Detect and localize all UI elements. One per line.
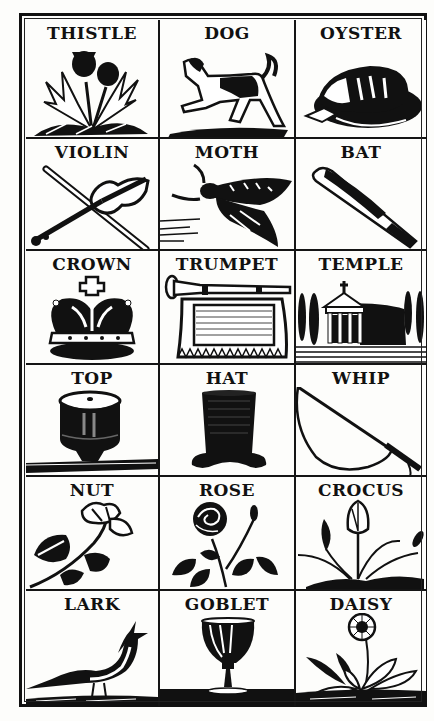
crown-icon — [26, 273, 158, 363]
cell-label: OYSTER — [296, 23, 426, 43]
temple-icon — [296, 273, 426, 363]
violin-icon — [26, 161, 158, 249]
cell-temple: TEMPLE — [296, 251, 426, 365]
cell-label: MOTH — [160, 142, 294, 162]
cell-label: TRUMPET — [160, 254, 294, 274]
cell-label: TOP — [26, 368, 158, 388]
top-hat-icon — [160, 387, 294, 475]
cell-label: DOG — [160, 23, 294, 43]
cell-violin: VIOLIN — [26, 139, 160, 251]
cell-trumpet: TRUMPET — [160, 251, 296, 365]
cell-daisy: DAISY — [296, 591, 426, 706]
goblet-icon — [160, 613, 294, 706]
cell-label: TEMPLE — [296, 254, 426, 274]
oyster-icon — [296, 42, 426, 137]
daisy-icon — [296, 613, 426, 706]
cell-oyster: OYSTER — [296, 20, 426, 139]
cell-crocus: CROCUS — [296, 477, 426, 591]
trumpet-icon — [160, 273, 294, 363]
cell-label: HAT — [160, 368, 294, 388]
moth-icon — [160, 161, 294, 249]
cell-bat: BAT — [296, 139, 426, 251]
rose-icon — [160, 499, 294, 589]
crocus-icon — [296, 499, 426, 589]
spinning-top-icon — [26, 387, 158, 475]
thistle-icon — [26, 42, 158, 137]
cell-thistle: THISTLE — [26, 20, 160, 139]
cell-label: BAT — [296, 142, 426, 162]
cell-label: CROCUS — [296, 480, 426, 500]
lark-icon — [26, 613, 158, 706]
bat-icon — [296, 161, 426, 249]
cell-hat: HAT — [160, 365, 296, 477]
cell-label: NUT — [26, 480, 158, 500]
cell-label: ROSE — [160, 480, 294, 500]
cell-whip: WHIP — [296, 365, 426, 477]
cell-label: DAISY — [296, 594, 426, 614]
cell-label: GOBLET — [160, 594, 294, 614]
cell-goblet: GOBLET — [160, 591, 296, 706]
nut-branch-icon — [26, 499, 158, 589]
cell-label: WHIP — [296, 368, 426, 388]
cell-label: VIOLIN — [26, 142, 158, 162]
cell-dog: DOG — [160, 20, 296, 139]
cell-label: CROWN — [26, 254, 158, 274]
dog-icon — [160, 42, 294, 137]
picture-grid: THISTLE DOG — [26, 20, 420, 700]
picture-chart-frame: THISTLE DOG — [19, 13, 427, 707]
cell-rose: ROSE — [160, 477, 296, 591]
cell-crown: CROWN — [26, 251, 160, 365]
cell-label: THISTLE — [26, 23, 158, 43]
cell-top: TOP — [26, 365, 160, 477]
whip-icon — [296, 387, 426, 475]
cell-moth: MOTH — [160, 139, 296, 251]
cell-nut: NUT — [26, 477, 160, 591]
cell-lark: LARK — [26, 591, 160, 706]
cell-label: LARK — [26, 594, 158, 614]
